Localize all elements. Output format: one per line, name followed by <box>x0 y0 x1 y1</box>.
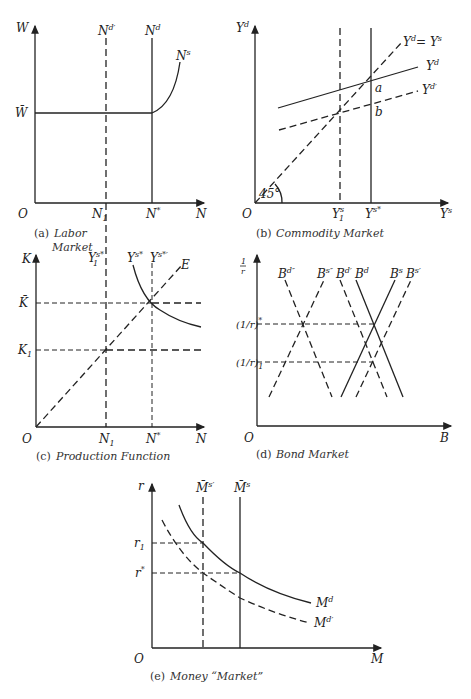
nstar-label: N* <box>145 206 161 221</box>
bs2-label: Bs″ <box>316 266 333 281</box>
money-demand-curve <box>179 505 311 603</box>
y-axis-label: r <box>138 479 145 493</box>
ns-label: Ns <box>175 48 191 63</box>
caption-c-prefix: (c) <box>36 450 51 463</box>
rstar-label: (1/r)* <box>236 316 262 330</box>
x-axis-label: N <box>195 432 207 446</box>
point-b-label: b <box>375 105 383 119</box>
ys-star-label: Ys* <box>365 205 381 221</box>
bd-label: Bd <box>354 266 369 281</box>
x-axis-label: B <box>439 431 449 445</box>
nd-label: Nd <box>144 23 161 38</box>
labor-supply-curve <box>152 62 180 113</box>
e-label: E <box>180 258 190 272</box>
y-axis-label-den: r <box>241 267 246 276</box>
x-axis-label: N <box>195 207 207 221</box>
wage-label: W̄ <box>15 105 29 120</box>
caption-b: Commodity Market <box>276 227 384 240</box>
n1-label: N1 <box>98 432 115 448</box>
kbar-label: K̄ <box>18 295 29 310</box>
caption-a-prefix: (a) <box>34 227 49 240</box>
point-a-label: a <box>375 81 382 95</box>
ys-star-prime-label: Ys*′ <box>150 250 168 265</box>
y1s-star-label: Ys*1 <box>88 250 104 268</box>
nd-prime-label: Nd′ <box>97 23 116 38</box>
r1-label: (1/r)1 <box>236 357 263 371</box>
x-axis-label: M <box>370 652 384 666</box>
bond-supply-s2-line <box>269 280 324 397</box>
bs1-label: Bs′ <box>405 266 421 281</box>
origin-label: O <box>134 652 144 666</box>
bond-supply-line <box>341 280 395 397</box>
caption-d: Bond Market <box>275 448 350 461</box>
aggregate-demand-shifted-line <box>279 91 418 130</box>
bd1-label: Bd′ <box>335 266 352 281</box>
bs-label: Bs <box>389 266 403 281</box>
bond-demand-line <box>356 280 403 397</box>
panel-production-function: K N O K̄ K1 E Ys*1 Ys* Ys*′ N1 N* (c) Pr… <box>17 250 207 463</box>
bd2-label: Bd″ <box>277 266 295 281</box>
caption-a-line1: Labor <box>53 227 88 240</box>
caption-e: Money “Market” <box>169 670 263 683</box>
expansion-path <box>36 265 182 427</box>
yd-prime-label: Yd′ <box>422 82 437 97</box>
origin-label: O <box>242 207 252 221</box>
y-axis-label: K <box>21 252 32 266</box>
y-axis-label: W <box>16 21 30 35</box>
caption-a-line2: Market <box>51 241 93 254</box>
nstar-label: N* <box>145 431 161 446</box>
rstar-label: r* <box>135 565 145 580</box>
y-axis-label-num: 1 <box>241 257 246 266</box>
caption-c: Production Function <box>55 450 170 463</box>
origin-label: O <box>22 432 32 446</box>
line-45-degree <box>255 42 402 203</box>
n1-label: N1 <box>91 207 108 223</box>
caption-b-prefix: (b) <box>256 227 272 240</box>
line45-label: Yd= Ys <box>403 34 442 49</box>
isoquant-curve <box>133 265 201 327</box>
keynesian-five-market-diagram: W N O W̄ Ns Nd Nd′ N1 N* (a) Labor Marke… <box>0 0 471 699</box>
md-prime-label: Md′ <box>313 615 333 630</box>
ms-prime-label: M̄s′ <box>195 480 214 495</box>
ms-label: M̄s <box>233 480 250 495</box>
panel-commodity-market: Yd Ys O 45° Yd= Ys Yd Yd′ a b Ys1 Ys* (b… <box>236 20 452 240</box>
angle-label: 45° <box>258 187 280 201</box>
r1-label: r1 <box>134 536 145 552</box>
panel-bond-market: 1 r B O (1/r)* (1/r)1 Bd″ Bs″ Bd′ Bd Bs … <box>236 255 451 461</box>
origin-label: O <box>18 207 28 221</box>
caption-d-prefix: (d) <box>256 448 272 461</box>
caption-e-prefix: (e) <box>150 670 165 683</box>
panel-labor-market: W N O W̄ Ns Nd Nd′ N1 N* (a) Labor Marke… <box>15 21 207 427</box>
bond-demand-d2-line <box>285 280 332 397</box>
origin-label: O <box>244 431 254 445</box>
bond-supply-s1-line <box>356 280 411 397</box>
md-label: Md <box>315 595 333 610</box>
y1s-label: Ys1 <box>332 205 344 223</box>
panel-money-market: r M O r1 r* M̄s′ M̄s Md Md′ (e) Money “M… <box>134 479 384 683</box>
yd-label: Yd <box>426 58 439 73</box>
y-axis-label: Yd <box>236 20 249 35</box>
ys-star-label: Ys* <box>127 250 143 265</box>
k1-label: K1 <box>17 343 32 359</box>
x-axis-label: Ys <box>440 206 452 221</box>
